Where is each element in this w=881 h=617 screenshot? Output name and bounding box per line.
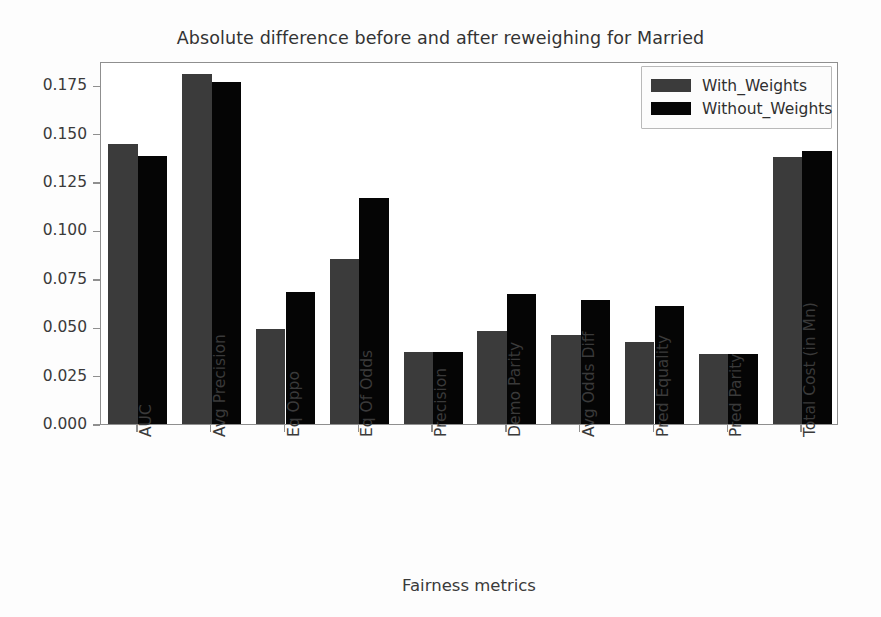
figure-canvas: Absolute difference before and after rew…	[0, 0, 881, 617]
y-tick-label: 0.175	[43, 76, 87, 94]
y-tick-mark	[93, 134, 100, 135]
y-tick-label: 0.075	[43, 270, 87, 288]
bar	[551, 335, 581, 424]
x-tick-label: Avg Precision	[211, 334, 229, 437]
bar	[108, 144, 138, 424]
bar	[404, 352, 434, 424]
y-tick-mark	[93, 376, 100, 377]
bar	[182, 74, 212, 424]
bar	[773, 157, 803, 424]
legend: With_Weights Without_Weights	[641, 66, 832, 129]
bar	[699, 354, 729, 424]
x-tick-label: Avg Odds Diff	[580, 332, 598, 437]
y-tick-label: 0.050	[43, 318, 87, 336]
y-tick-mark	[93, 231, 100, 232]
x-tick-label: Eq Oppo	[285, 371, 303, 437]
bar	[625, 342, 655, 424]
x-tick-label: Precision	[432, 368, 450, 437]
legend-label: Without_Weights	[702, 100, 832, 118]
y-tick-mark	[93, 86, 100, 87]
y-tick-mark	[93, 424, 100, 425]
x-tick-label: Eq Of Odds	[358, 350, 376, 437]
legend-swatch-without-weights	[651, 102, 691, 115]
x-tick-label: Pred Parity	[727, 354, 745, 438]
x-tick-label: AUC	[137, 404, 155, 437]
y-tick-label: 0.025	[43, 367, 87, 385]
x-axis-label: Fairness metrics	[100, 576, 838, 595]
y-tick-label: 0.150	[43, 125, 87, 143]
y-tick-label: 0.125	[43, 173, 87, 191]
y-axis: 0.0000.0250.0500.0750.1000.1250.1500.175	[0, 0, 100, 617]
legend-item: With_Weights	[651, 74, 822, 97]
legend-item: Without_Weights	[651, 97, 822, 120]
chart-title: Absolute difference before and after rew…	[0, 28, 881, 48]
x-tick-label: Pred Equality	[654, 335, 672, 437]
legend-swatch-with-weights	[651, 79, 691, 92]
y-tick-label: 0.100	[43, 221, 87, 239]
bar	[477, 331, 507, 424]
y-tick-label: 0.000	[43, 415, 87, 433]
y-tick-mark	[93, 279, 100, 280]
y-tick-mark	[93, 328, 100, 329]
x-tick-label: Demo Parity	[506, 342, 524, 437]
y-tick-mark	[93, 182, 100, 183]
bar	[330, 259, 360, 424]
legend-label: With_Weights	[702, 77, 807, 95]
bar	[256, 329, 286, 424]
x-tick-label: Total Cost (in Mn)	[801, 302, 819, 437]
bar	[138, 156, 168, 424]
